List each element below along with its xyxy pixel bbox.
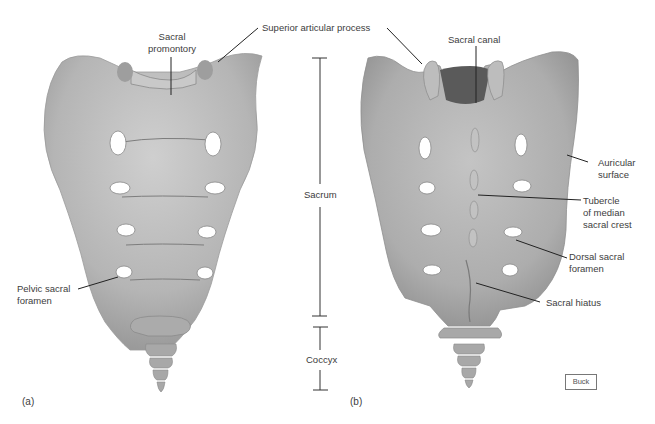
label-superior-articular-process: Superior articular process (262, 22, 370, 34)
brackets (312, 58, 328, 390)
bracket-label-sacrum: Sacrum (304, 188, 337, 201)
panel-label-b: (b) (350, 396, 362, 407)
label-sacral-hiatus: Sacral hiatus (546, 297, 601, 309)
posterior-coccyx (439, 328, 502, 388)
label-tubercle-median-sacral-crest: Tubercle of median sacral crest (583, 195, 632, 231)
bracket-label-coccyx: Coccyx (306, 353, 337, 366)
panel-label-a: (a) (22, 396, 34, 407)
anterior-coccyx (130, 316, 190, 392)
label-auricular-surface: Auricular surface (598, 157, 636, 181)
posterior-sacrum (361, 52, 579, 326)
label-pelvic-sacral-foramen: Pelvic sacral foramen (17, 283, 70, 307)
artist-credit: Buck (565, 374, 597, 390)
label-dorsal-sacral-foramen: Dorsal sacral foramen (569, 251, 624, 275)
label-sacral-canal: Sacral canal (448, 34, 500, 46)
label-sacral-promontory: Sacral promontory (148, 31, 196, 55)
anterior-sacrum (44, 53, 262, 350)
